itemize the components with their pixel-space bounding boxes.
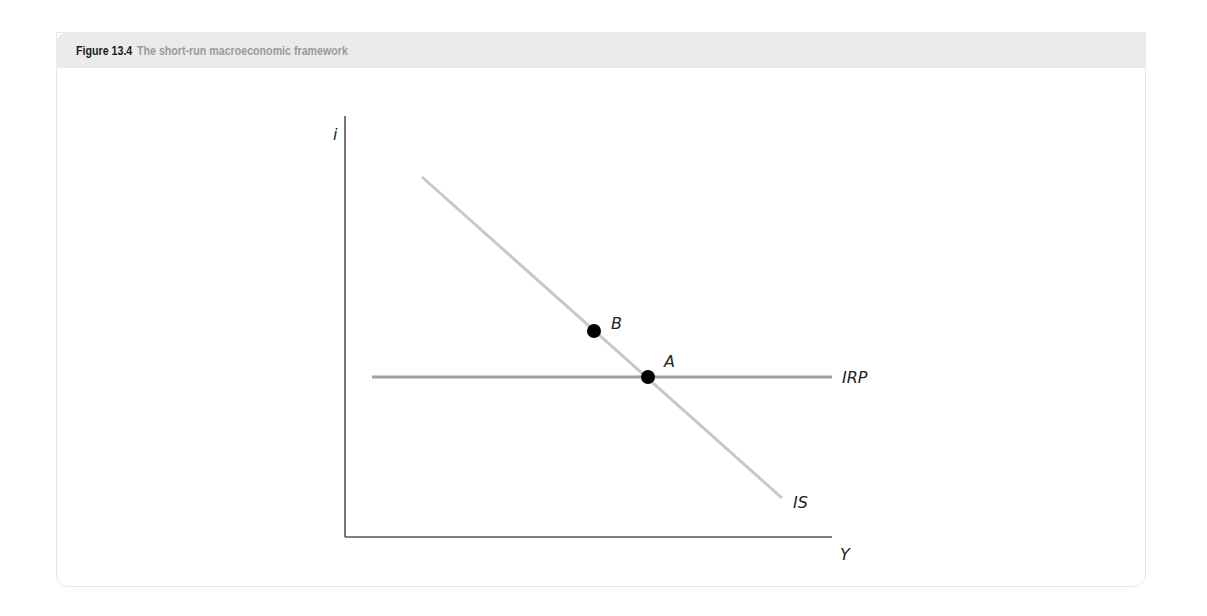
x-axis-label: Y — [840, 545, 851, 564]
irp-label: IRP — [842, 368, 868, 387]
point-a-label: A — [663, 352, 675, 371]
point-b-label: B — [611, 314, 622, 333]
is-curve — [422, 177, 782, 498]
point-a — [641, 370, 655, 384]
point-b — [587, 324, 601, 338]
y-axis-label: i — [333, 125, 338, 144]
is-label: IS — [793, 493, 808, 512]
diagram: i Y IRP IS B A — [0, 0, 1207, 616]
